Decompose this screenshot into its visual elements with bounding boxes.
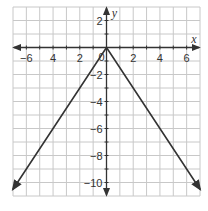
x-tick-label: 6: [184, 52, 190, 64]
x-tick-label: 2: [130, 52, 136, 64]
x-tick-label: 4: [157, 52, 163, 64]
y-tick-label: −10: [84, 177, 103, 189]
tick-labels: −6422462−2−4−6−8−100xy: [20, 6, 197, 189]
y-tick-label: −6: [90, 123, 103, 135]
x-tick-label: 4: [50, 52, 56, 64]
coordinate-graph: −6422462−2−4−6−8−100xy: [0, 0, 208, 211]
y-axis-label: y: [111, 6, 118, 20]
x-tick-label: 2: [77, 52, 83, 64]
x-axis-label: x: [190, 32, 197, 46]
x-tick-label: −6: [20, 52, 33, 64]
y-tick-label: 2: [96, 15, 102, 27]
y-tick-label: −4: [90, 96, 103, 108]
y-tick-label: −8: [90, 150, 103, 162]
